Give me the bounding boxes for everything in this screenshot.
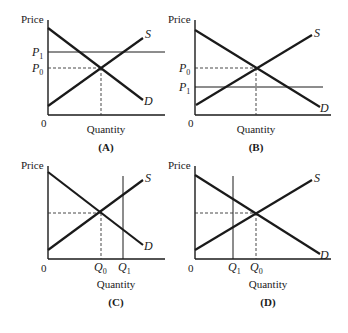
q0-label: Q0 — [250, 260, 263, 276]
supply-curve — [48, 180, 143, 250]
p1-label: P1 — [178, 80, 190, 96]
demand-curve — [48, 28, 143, 100]
demand-curve — [48, 172, 143, 245]
panel-caption: (A) — [98, 141, 114, 154]
quantity-axis-label: Quantity — [97, 278, 136, 290]
supply-label: S — [145, 171, 151, 185]
panel-caption: (D) — [260, 296, 276, 309]
p0-label: P0 — [31, 61, 43, 77]
p1-label: P1 — [31, 45, 43, 61]
panel-c: Price S D 0 Q0 Q1 Quantity (C) — [21, 159, 165, 309]
supply-label: S — [145, 27, 151, 41]
price-axis-label: Price — [21, 159, 44, 171]
supply-curve — [195, 180, 312, 250]
supply-curve — [48, 38, 143, 106]
panel-a: Price S D P1 P0 0 Quantity (A) — [21, 13, 165, 154]
origin-label: 0 — [188, 262, 194, 274]
origin-label: 0 — [41, 117, 47, 129]
q1-label: Q1 — [118, 260, 131, 276]
supply-demand-figure: Price S D P1 P0 0 Quantity (A) Price S D — [0, 0, 348, 333]
p0-label: P0 — [178, 61, 190, 77]
q1-label: Q1 — [228, 260, 241, 276]
demand-label: D — [319, 248, 329, 262]
demand-label: D — [319, 101, 329, 115]
price-axis-label: Price — [168, 159, 191, 171]
price-axis-label: Price — [168, 13, 191, 25]
panel-d: Price S D 0 Q1 Q0 Quantity (D) — [168, 159, 331, 309]
q0-label: Q0 — [94, 260, 107, 276]
supply-label: S — [314, 171, 320, 185]
supply-curve — [196, 35, 312, 105]
demand-label: D — [143, 94, 153, 108]
panel-b: Price S D P0 P1 0 Quantity (B) — [168, 13, 331, 154]
price-axis-label: Price — [21, 13, 44, 25]
quantity-axis-label: Quantity — [249, 278, 288, 290]
supply-label: S — [314, 26, 320, 40]
demand-label: D — [143, 239, 153, 253]
origin-label: 0 — [188, 117, 194, 129]
quantity-axis-label: Quantity — [87, 123, 126, 135]
quantity-axis-label: Quantity — [237, 123, 276, 135]
panel-caption: (B) — [249, 141, 264, 154]
panel-caption: (C) — [108, 296, 124, 309]
origin-label: 0 — [41, 262, 47, 274]
